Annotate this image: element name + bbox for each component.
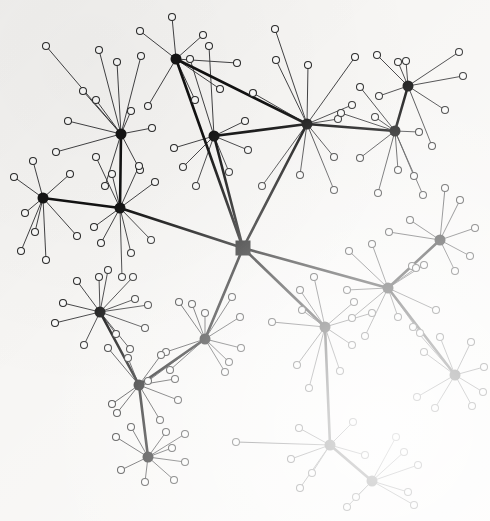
graph-node-leaf[interactable]	[349, 315, 356, 322]
graph-node-leaf[interactable]	[413, 265, 420, 272]
graph-node-leaf[interactable]	[362, 333, 369, 340]
graph-node-leaf[interactable]	[145, 302, 152, 309]
graph-node-leaf[interactable]	[32, 229, 39, 236]
graph-node-leaf[interactable]	[226, 169, 233, 176]
graph-node-leaf[interactable]	[288, 456, 295, 463]
graph-node-leaf[interactable]	[182, 459, 189, 466]
graph-node-leaf[interactable]	[369, 310, 376, 317]
graph-node-leaf[interactable]	[299, 307, 306, 314]
graph-node-leaf[interactable]	[437, 334, 444, 341]
graph-node-hub[interactable]	[115, 203, 126, 214]
graph-node-leaf[interactable]	[349, 102, 356, 109]
graph-node-leaf[interactable]	[18, 248, 25, 255]
graph-node-leaf[interactable]	[429, 143, 436, 150]
graph-node-leaf[interactable]	[344, 287, 351, 294]
graph-node-leaf[interactable]	[259, 183, 266, 190]
graph-node-hub[interactable]	[435, 235, 446, 246]
graph-node-leaf[interactable]	[233, 439, 240, 446]
graph-node-leaf[interactable]	[410, 324, 417, 331]
graph-node-leaf[interactable]	[457, 197, 464, 204]
graph-node-leaf[interactable]	[411, 173, 418, 180]
graph-node-leaf[interactable]	[234, 60, 241, 67]
graph-node-leaf[interactable]	[172, 376, 179, 383]
graph-node-leaf[interactable]	[65, 118, 72, 125]
graph-node-leaf[interactable]	[175, 397, 182, 404]
graph-node-leaf[interactable]	[169, 445, 176, 452]
graph-node-leaf[interactable]	[113, 331, 120, 338]
graph-node-leaf[interactable]	[128, 424, 135, 431]
graph-node-leaf[interactable]	[136, 163, 143, 170]
graph-node-leaf[interactable]	[237, 314, 244, 321]
graph-node-hub[interactable]	[143, 452, 154, 463]
graph-node-leaf[interactable]	[81, 342, 88, 349]
graph-node-leaf[interactable]	[467, 253, 474, 260]
graph-node-leaf[interactable]	[460, 73, 467, 80]
graph-node-leaf[interactable]	[350, 419, 357, 426]
graph-node-leaf[interactable]	[273, 57, 280, 64]
graph-node-leaf[interactable]	[305, 62, 312, 69]
graph-node-leaf[interactable]	[187, 56, 194, 63]
graph-node-leaf[interactable]	[411, 502, 418, 509]
graph-node-leaf[interactable]	[349, 342, 356, 349]
graph-node-leaf[interactable]	[192, 97, 199, 104]
graph-node-leaf[interactable]	[114, 59, 121, 66]
graph-node-leaf[interactable]	[193, 183, 200, 190]
graph-node-leaf[interactable]	[132, 296, 139, 303]
graph-node-hub[interactable]	[38, 193, 49, 204]
graph-node-leaf[interactable]	[105, 345, 112, 352]
graph-node-leaf[interactable]	[176, 299, 183, 306]
graph-node-leaf[interactable]	[152, 179, 159, 186]
graph-node-leaf[interactable]	[142, 479, 149, 486]
graph-node-leaf[interactable]	[352, 54, 359, 61]
graph-node-hub[interactable]	[200, 334, 211, 345]
graph-node-leaf[interactable]	[357, 155, 364, 162]
graph-node-leaf[interactable]	[245, 147, 252, 154]
graph-node-leaf[interactable]	[375, 190, 382, 197]
graph-node-leaf[interactable]	[189, 301, 196, 308]
graph-node-leaf[interactable]	[119, 274, 126, 281]
graph-node-leaf[interactable]	[432, 405, 439, 412]
graph-node-leaf[interactable]	[226, 359, 233, 366]
graph-node-leaf[interactable]	[128, 108, 135, 115]
graph-node-leaf[interactable]	[114, 410, 121, 417]
graph-node-hub[interactable]	[403, 81, 414, 92]
graph-node-leaf[interactable]	[180, 164, 187, 171]
graph-node-leaf[interactable]	[171, 477, 178, 484]
graph-node-leaf[interactable]	[362, 452, 369, 459]
graph-node-leaf[interactable]	[472, 225, 479, 232]
graph-node-leaf[interactable]	[43, 257, 50, 264]
graph-node-leaf[interactable]	[157, 417, 164, 424]
graph-node-hub[interactable]	[134, 380, 145, 391]
graph-node-leaf[interactable]	[171, 145, 178, 152]
graph-node-leaf[interactable]	[297, 172, 304, 179]
graph-node-leaf[interactable]	[421, 262, 428, 269]
graph-node-leaf[interactable]	[376, 93, 383, 100]
graph-node-leaf[interactable]	[372, 114, 379, 121]
graph-node-hub[interactable]	[95, 307, 106, 318]
graph-node-leaf[interactable]	[169, 14, 176, 21]
graph-node-leaf[interactable]	[294, 362, 301, 369]
graph-node-leaf[interactable]	[229, 294, 236, 301]
graph-node-leaf[interactable]	[311, 274, 318, 281]
graph-node-leaf[interactable]	[202, 310, 209, 317]
graph-node-leaf[interactable]	[137, 28, 144, 35]
graph-node-leaf[interactable]	[469, 403, 476, 410]
graph-node-leaf[interactable]	[346, 248, 353, 255]
graph-node-leaf[interactable]	[80, 88, 87, 95]
graph-node-leaf[interactable]	[442, 107, 449, 114]
graph-node-leaf[interactable]	[125, 355, 132, 362]
graph-node-leaf[interactable]	[163, 429, 170, 436]
graph-node-leaf[interactable]	[149, 125, 156, 132]
graph-node-hub[interactable]	[390, 126, 401, 137]
graph-node-leaf[interactable]	[433, 307, 440, 314]
graph-node-leaf[interactable]	[395, 167, 402, 174]
graph-node-leaf[interactable]	[269, 319, 276, 326]
graph-node-leaf[interactable]	[401, 449, 408, 456]
graph-node-hub[interactable]	[171, 54, 182, 65]
graph-node-leaf[interactable]	[468, 339, 475, 346]
graph-node-leaf[interactable]	[452, 268, 459, 275]
graph-node-leaf[interactable]	[421, 349, 428, 356]
graph-node-leaf[interactable]	[74, 278, 81, 285]
graph-node-leaf[interactable]	[407, 217, 414, 224]
graph-node-leaf[interactable]	[297, 485, 304, 492]
